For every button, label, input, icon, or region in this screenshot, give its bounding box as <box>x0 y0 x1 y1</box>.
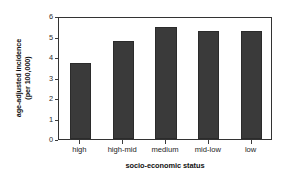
y-axis-title: age-adjusted incidence (per 100,000) <box>8 14 38 142</box>
y-axis-tick-label: 6 <box>38 13 53 21</box>
x-axis-tick-mark <box>79 140 80 144</box>
y-axis-tick-label: 0 <box>38 136 53 144</box>
bar <box>70 63 91 139</box>
bar-chart-figure: age-adjusted incidence (per 100,000) 012… <box>0 0 291 182</box>
x-axis-tick-label: low <box>245 145 256 155</box>
y-axis-title-line2: (per 100,000) <box>23 39 32 118</box>
y-axis-tick-label: 1 <box>38 116 53 124</box>
x-axis-tick-mark <box>251 140 252 144</box>
y-axis-tick-label: 3 <box>38 75 53 83</box>
y-axis-tick-mark <box>55 140 59 141</box>
x-axis-tick-label: high <box>72 145 86 155</box>
y-axis-tick-labels: 0123456 <box>38 12 53 145</box>
bar <box>198 31 219 139</box>
y-axis-tick-label: 4 <box>38 54 53 62</box>
bar <box>155 27 176 139</box>
bar <box>113 41 134 139</box>
y-axis-tick-mark <box>55 79 59 80</box>
y-axis-title-line1: age-adjusted incidence <box>14 39 23 118</box>
y-axis-tick-label: 5 <box>38 34 53 42</box>
y-axis-tick-mark <box>55 17 59 18</box>
y-axis-tick-mark <box>55 38 59 39</box>
x-axis-tick-mark <box>165 140 166 144</box>
y-axis-tick-label: 2 <box>38 95 53 103</box>
x-axis-tick-label: high-mid <box>108 145 137 155</box>
plot-area <box>58 17 272 140</box>
y-axis-tick-mark <box>55 120 59 121</box>
y-axis-tick-mark <box>55 58 59 59</box>
x-axis-tick-label: medium <box>151 145 178 155</box>
x-axis-tick-mark <box>208 140 209 144</box>
x-axis-tick-mark <box>122 140 123 144</box>
x-axis-title: socio-economic status <box>58 161 272 170</box>
y-axis-tick-mark <box>55 99 59 100</box>
x-axis-tick-label: mid-low <box>195 145 221 155</box>
bar <box>241 31 262 139</box>
bars-layer <box>59 18 271 139</box>
